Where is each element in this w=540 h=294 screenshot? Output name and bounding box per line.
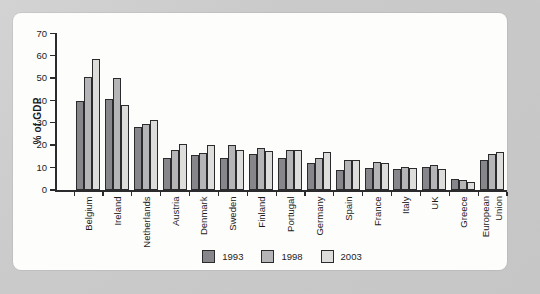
bar-greece-2003 (467, 182, 475, 190)
bar-ireland-1993 (105, 99, 113, 190)
legend-item: 1998 (261, 250, 302, 263)
legend-label: 1998 (281, 251, 302, 262)
legend-label: 2003 (341, 251, 362, 262)
legend-item: 2003 (321, 250, 362, 263)
x-tick (189, 192, 190, 196)
x-tick (362, 192, 363, 196)
bar-france-1993 (365, 168, 373, 190)
bar-portugal-1998 (286, 150, 294, 190)
bar-uk-1993 (422, 167, 430, 190)
bar-netherlands-1993 (134, 127, 142, 190)
x-tick (304, 192, 305, 196)
bar-uk-1998 (430, 165, 438, 190)
bar-finland-1998 (257, 148, 265, 190)
legend-item: 1993 (202, 250, 243, 263)
y-tick (50, 144, 55, 146)
x-axis-line (55, 190, 507, 192)
y-tick (50, 122, 55, 124)
bar-finland-2003 (265, 151, 273, 190)
bar-france-1998 (373, 162, 381, 190)
bar-portugal-1993 (278, 158, 286, 190)
bar-greece-1998 (459, 180, 467, 190)
bar-denmark-1993 (191, 155, 199, 190)
x-tick (333, 192, 334, 196)
x-tick (102, 192, 103, 196)
bar-netherlands-2003 (150, 120, 158, 190)
y-tick (50, 189, 55, 191)
y-tick-label: 20 (25, 140, 47, 150)
bar-european-union-1993 (480, 160, 488, 190)
bar-sweden-2003 (236, 150, 244, 190)
bar-italy-1998 (401, 167, 409, 190)
bar-uk-2003 (438, 169, 446, 190)
y-axis-line (55, 33, 57, 192)
legend-swatch-2003 (321, 250, 334, 263)
y-tick-label: 10 (25, 163, 47, 173)
bar-france-2003 (381, 163, 389, 190)
bar-germany-1998 (315, 158, 323, 190)
bar-italy-1993 (393, 169, 401, 190)
y-tick-label: 50 (25, 73, 47, 83)
bar-ireland-1998 (113, 78, 121, 190)
bar-belgium-2003 (92, 59, 100, 190)
bar-european-union-2003 (496, 152, 504, 190)
x-tick (506, 192, 507, 196)
bar-austria-1993 (163, 158, 171, 190)
bar-sweden-1993 (220, 158, 228, 190)
x-tick (391, 192, 392, 196)
bar-spain-1998 (344, 160, 352, 190)
x-tick (160, 192, 161, 196)
x-tick (74, 192, 75, 196)
bar-european-union-1998 (488, 154, 496, 190)
bar-finland-1993 (249, 154, 257, 190)
bar-greece-1993 (451, 179, 459, 190)
x-tick (276, 192, 277, 196)
chart-panel: % of GDP 010203040506070BelgiumIrelandNe… (13, 13, 507, 270)
legend-swatch-1998 (261, 250, 274, 263)
bar-italy-2003 (409, 168, 417, 190)
y-tick (50, 55, 55, 57)
bar-ireland-2003 (121, 105, 129, 190)
x-tick (131, 192, 132, 196)
y-tick (50, 167, 55, 169)
y-tick (50, 33, 55, 35)
y-tick (50, 100, 55, 102)
bar-belgium-1993 (76, 101, 84, 190)
bar-belgium-1998 (84, 77, 92, 190)
chart-legend: 199319982003 (57, 249, 507, 263)
x-tick (218, 192, 219, 196)
bar-germany-1993 (307, 163, 315, 190)
bar-austria-2003 (179, 144, 187, 190)
bar-austria-1998 (171, 150, 179, 190)
bar-sweden-1998 (228, 145, 236, 190)
bar-germany-2003 (323, 152, 331, 190)
bar-denmark-2003 (207, 145, 215, 190)
legend-label: 1993 (222, 251, 243, 262)
legend-swatch-1993 (202, 250, 215, 263)
bar-denmark-1998 (199, 153, 207, 190)
page-background: % of GDP 010203040506070BelgiumIrelandNe… (0, 0, 540, 294)
x-tick (420, 192, 421, 196)
bar-chart: % of GDP 010203040506070BelgiumIrelandNe… (13, 13, 507, 270)
y-tick (50, 77, 55, 79)
bar-spain-1993 (336, 170, 344, 190)
y-tick-label: 30 (25, 118, 47, 128)
x-tick (247, 192, 248, 196)
y-tick-label: 40 (25, 96, 47, 106)
y-tick-label: 0 (25, 185, 47, 195)
x-tick (449, 192, 450, 196)
bar-netherlands-1998 (142, 124, 150, 190)
bar-portugal-2003 (294, 150, 302, 190)
bar-spain-2003 (352, 160, 360, 190)
y-tick-label: 60 (25, 51, 47, 61)
y-tick-label: 70 (25, 29, 47, 39)
